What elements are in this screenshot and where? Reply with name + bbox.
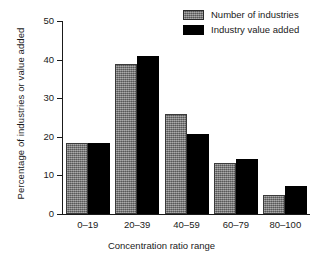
- y-tick-label-50: 50: [43, 16, 54, 26]
- bar-number-of-industries: [165, 114, 187, 214]
- y-tick-label-30: 30: [43, 93, 54, 103]
- y-tick-label-10: 10: [43, 171, 54, 181]
- y-tick-label-20: 20: [43, 132, 54, 142]
- x-tick-label: 20–39: [112, 219, 161, 230]
- bar-industry-value-added: [88, 143, 110, 214]
- x-tick-labels: 0–19 20–39 40–59 60–79 80–100: [63, 219, 310, 230]
- bar-industry-value-added: [137, 56, 159, 214]
- bar-number-of-industries: [115, 64, 137, 214]
- bar-number-of-industries: [66, 143, 88, 214]
- bar-chart-figure: Percentage of industries or value added …: [0, 0, 323, 265]
- bar-number-of-industries: [263, 195, 285, 214]
- y-tick-label-40: 40: [43, 55, 54, 65]
- bar-group: [112, 21, 161, 214]
- gray-swatch-icon: [183, 10, 204, 20]
- bar-group: [211, 21, 260, 214]
- bar-industry-value-added: [187, 134, 209, 214]
- plot-area: 0 10 20 30 40 50: [62, 21, 310, 214]
- black-swatch-icon: [183, 25, 204, 35]
- x-tick-label: 40–59: [162, 219, 211, 230]
- legend-item: Industry value added: [183, 24, 299, 35]
- legend-label: Number of industries: [211, 9, 299, 20]
- x-tick-label: 0–19: [63, 219, 112, 230]
- y-axis-title: Percentage of industries or value added: [15, 14, 26, 214]
- legend-label: Industry value added: [211, 24, 299, 35]
- bar-industry-value-added: [236, 159, 258, 214]
- bar-groups: [63, 21, 310, 214]
- bar-number-of-industries: [214, 163, 236, 214]
- x-axis-title: Concentration ratio range: [0, 240, 323, 251]
- x-tick-label: 60–79: [211, 219, 260, 230]
- x-axis-line: [62, 214, 310, 215]
- bar-group: [261, 21, 310, 214]
- y-tick-label-0: 0: [49, 209, 54, 219]
- x-tick-label: 80–100: [261, 219, 310, 230]
- legend-item: Number of industries: [183, 9, 299, 20]
- bar-industry-value-added: [285, 186, 307, 214]
- bar-group: [63, 21, 112, 214]
- chart-legend: Number of industries Industry value adde…: [183, 9, 299, 39]
- bar-group: [162, 21, 211, 214]
